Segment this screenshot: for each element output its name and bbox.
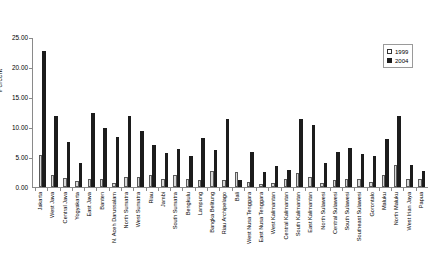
x-label-cell: N. Aceh Darussalam: [109, 192, 121, 267]
x-label-cell: Jakarta: [35, 192, 47, 267]
bar-2004: [238, 180, 242, 187]
bar-2004: [165, 153, 169, 187]
x-tick-label: Southeast Sulawesi: [358, 192, 364, 241]
x-label-cell: Bangka Belitung: [207, 192, 219, 267]
x-tick-label: Central Java: [63, 192, 69, 223]
bar-2004: [214, 150, 218, 187]
bar-2004: [263, 172, 267, 187]
x-tick-label: South Sulawesi: [345, 192, 351, 231]
x-tick-label: West Irian Jaya: [407, 192, 413, 230]
bar-group: [306, 38, 318, 187]
x-tick-label: West Sumatra: [137, 192, 143, 227]
y-tick-label: 0.00: [2, 185, 28, 191]
bar-2004: [67, 142, 71, 187]
legend-swatch-1999: [387, 49, 392, 54]
bar-group: [85, 38, 97, 187]
x-label-cell: West Kalimantan: [268, 192, 280, 267]
legend-swatch-2004: [387, 58, 392, 63]
x-label-cell: Riau Archipelago: [219, 192, 231, 267]
bar-2004: [201, 138, 205, 187]
bar-2004: [312, 125, 316, 187]
x-label-cell: Central Kalimantan: [281, 192, 293, 267]
x-tick-label: South Kalimantan: [296, 192, 302, 236]
x-label-cell: Riau: [146, 192, 158, 267]
x-tick-label: Jakarta: [38, 192, 44, 210]
x-label-cell: North Sulawesi: [317, 192, 329, 267]
x-label-cell: West Sumatra: [133, 192, 145, 267]
bar-group: [146, 38, 158, 187]
x-tick-label: North Sulawesi: [321, 192, 327, 230]
x-label-cell: East Kalimantan: [305, 192, 317, 267]
bar-group: [122, 38, 134, 187]
x-tick-label: Bengkulu: [186, 192, 192, 215]
bar-2004: [348, 148, 352, 187]
x-tick-label: Yogyakarta: [75, 192, 81, 220]
x-tick-label: Central Kalimantan: [284, 192, 290, 240]
bar-group: [269, 38, 281, 187]
bar-2004: [79, 163, 83, 187]
bar-2004: [103, 128, 107, 187]
legend-label: 1999: [395, 49, 408, 55]
x-tick-label: Papua: [419, 192, 425, 208]
y-tick-label: 5.00: [2, 155, 28, 161]
y-tick-label: 25.00: [2, 35, 28, 41]
x-tick-label: N. Aceh Darussalam: [112, 192, 118, 243]
x-label-cell: Maluku: [379, 192, 391, 267]
bar-group: [208, 38, 220, 187]
y-tick-mark: [29, 128, 32, 129]
bar-group: [281, 38, 293, 187]
bar-2004: [361, 154, 365, 187]
x-label-cell: South Sulawesi: [342, 192, 354, 267]
bar-group: [244, 38, 256, 187]
bar-group: [171, 38, 183, 187]
bar-2004: [42, 51, 46, 187]
y-tick-label: 20.00: [2, 65, 28, 71]
y-axis-title: Percent: [0, 69, 3, 92]
bar-group: [330, 38, 342, 187]
bar-2004: [91, 113, 95, 187]
x-label-cell: Bali: [232, 192, 244, 267]
bar-group: [73, 38, 85, 187]
x-label-cell: Yogyakarta: [72, 192, 84, 267]
bar-chart: Percent 25.0020.0015.0010.005.000.00 Jak…: [0, 0, 436, 267]
y-tick-label: 15.00: [2, 95, 28, 101]
bar-group: [48, 38, 60, 187]
bar-series-container: [33, 38, 428, 187]
bar-2004: [275, 166, 279, 187]
x-label-cell: North Sumatra: [121, 192, 133, 267]
x-tick-label: South Sumatra: [173, 192, 179, 229]
x-tick-label: Riau: [149, 192, 155, 204]
x-label-cell: Bengkulu: [182, 192, 194, 267]
bar-group: [183, 38, 195, 187]
bar-group: [232, 38, 244, 187]
y-tick-mark: [29, 38, 32, 39]
x-tick-label: Banten: [100, 192, 106, 210]
x-label-cell: East Java: [84, 192, 96, 267]
bar-2004: [177, 149, 181, 187]
x-axis-labels: JakartaWest JavaCentral JavaYogyakartaEa…: [32, 192, 428, 267]
bar-2004: [54, 116, 58, 187]
x-label-cell: Central Java: [60, 192, 72, 267]
legend-entry: 1999: [387, 47, 408, 56]
y-tick-mark: [29, 98, 32, 99]
bar-2004: [226, 119, 230, 187]
legend-entry: 2004: [387, 56, 408, 65]
x-tick-label: Lampung: [198, 192, 204, 215]
x-label-cell: Southeast Sulawesi: [354, 192, 366, 267]
x-label-cell: West Irian Jaya: [403, 192, 415, 267]
bar-group: [110, 38, 122, 187]
x-tick-label: Bali: [235, 192, 241, 201]
bar-2004: [336, 152, 340, 187]
x-tick-label: East Java: [87, 192, 93, 217]
x-label-cell: West Nusa Tenggara: [244, 192, 256, 267]
x-label-cell: Gorontalo: [367, 192, 379, 267]
bar-group: [220, 38, 232, 187]
bar-2004: [422, 171, 426, 187]
x-tick-label: Maluku: [382, 192, 388, 210]
x-tick-label: North Maluku: [395, 192, 401, 225]
bar-2004: [324, 163, 328, 187]
bar-2004: [287, 170, 291, 187]
x-label-cell: North Maluku: [391, 192, 403, 267]
x-label-cell: Lampung: [195, 192, 207, 267]
bar-group: [367, 38, 379, 187]
